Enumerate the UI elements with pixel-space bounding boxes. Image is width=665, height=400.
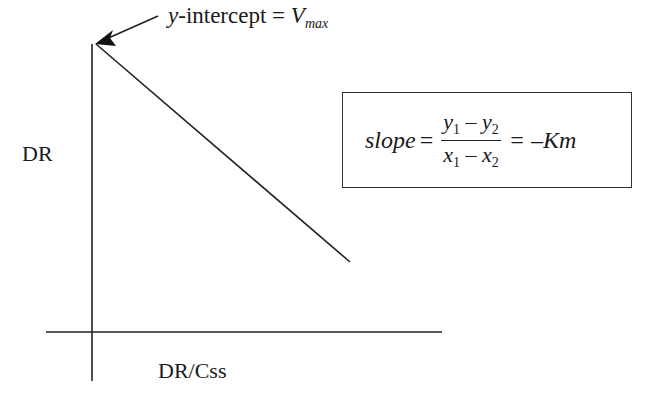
x-axis-label: DR/Css	[158, 360, 226, 382]
y1-sub: 1	[453, 122, 460, 137]
minus: –	[460, 142, 482, 167]
slope-formula-box: slope = y1 – y2 x1 – x2 = –Km	[342, 92, 632, 188]
x2-var: x	[482, 142, 492, 167]
regression-line	[96, 44, 350, 262]
slope-result: = –Km	[509, 127, 577, 154]
y-intercept-annotation: y-intercept = Vmax	[168, 4, 328, 31]
minus: –	[460, 109, 482, 134]
y2-var: y	[482, 109, 492, 134]
vmax-sub: max	[305, 16, 328, 31]
slope-fraction: y1 – y2 x1 – x2	[441, 110, 501, 170]
y-axis-label: DR	[22, 143, 53, 165]
y1-var: y	[443, 109, 453, 134]
slope-label: slope	[365, 127, 416, 154]
annotation-text: -intercept =	[178, 3, 291, 28]
y2-sub: 2	[492, 122, 499, 137]
fraction-numerator: y1 – y2	[441, 110, 501, 141]
equals-sign: =	[420, 127, 434, 154]
plot-canvas	[0, 0, 665, 400]
y-var: y	[168, 3, 178, 28]
vmax-main: V	[291, 3, 305, 28]
x1-var: x	[443, 142, 453, 167]
arrow-icon	[95, 16, 158, 46]
x2-sub: 2	[492, 155, 499, 170]
fraction-denominator: x1 – x2	[443, 141, 499, 171]
x1-sub: 1	[453, 155, 460, 170]
slope-formula: slope = y1 – y2 x1 – x2 = –Km	[365, 93, 576, 187]
